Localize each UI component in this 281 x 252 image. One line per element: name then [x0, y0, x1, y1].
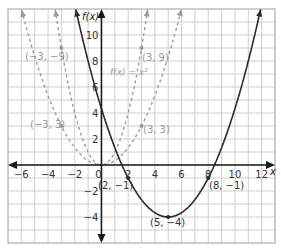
x-tick-label: −4: [41, 169, 56, 180]
y-tick-label: 4: [92, 108, 98, 119]
y-axis-down-arrow-icon: [97, 234, 105, 243]
data-point: [59, 46, 63, 50]
y-tick-label: 6: [92, 82, 98, 93]
x-tick-label: 6: [178, 169, 184, 180]
y-tick-label: −4: [84, 212, 99, 223]
arrowhead-icon: [144, 9, 150, 16]
x-tick-label: 0: [95, 169, 101, 180]
x-tick-label: −6: [14, 169, 29, 180]
y-tick-label: 8: [92, 56, 98, 67]
annotation-3-9: (3, 9): [142, 52, 169, 63]
x-tick-label: 4: [152, 169, 158, 180]
y-tick-label: 10: [86, 30, 99, 41]
annotation-5-neg4: (5, −4): [150, 217, 185, 228]
annotation-neg3-3: (−3, 3): [30, 119, 65, 130]
annotation-2-neg1: (2, −1): [98, 180, 133, 191]
data-point: [140, 46, 144, 50]
x-axis-left-arrow-icon: [8, 161, 17, 169]
graph: −6−4−2024681012−4−2246810 x f(x) (−3, −9…: [0, 0, 281, 252]
x-tick-label: 12: [255, 169, 268, 180]
arrowhead-icon: [53, 9, 59, 16]
annotation-3-3: (3, 3): [143, 124, 170, 135]
y-tick-label: −2: [84, 186, 99, 197]
annotation-8-neg1: (8, −1): [209, 180, 244, 191]
x-tick-label: −2: [67, 169, 82, 180]
x-tick-label: 10: [229, 169, 242, 180]
y-axis-label: f(x): [82, 11, 99, 22]
annotation-neg3-9: (−3, −9): [25, 51, 69, 62]
y-tick-label: 2: [92, 134, 98, 145]
x-axis-label: x: [269, 166, 276, 177]
annotation-fx-equation: f(x) = x²: [110, 67, 148, 77]
